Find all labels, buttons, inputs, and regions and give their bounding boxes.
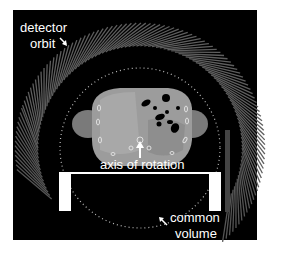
ct-geometry-diagram: detector orbit axis of rotation common v… (0, 0, 281, 256)
detector-label: detector (20, 20, 68, 35)
volume-label: volume (175, 226, 217, 241)
common-label: common (170, 210, 220, 225)
orbit-label: orbit (30, 36, 56, 51)
detector-right-band (225, 130, 230, 212)
axis-of-rotation-label: axis of rotation (100, 157, 185, 172)
